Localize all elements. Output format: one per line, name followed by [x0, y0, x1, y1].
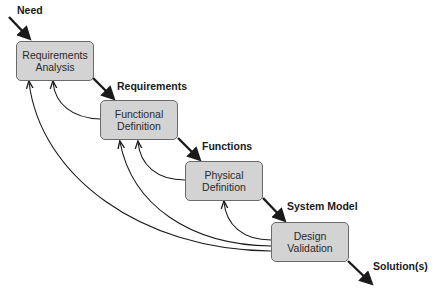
box-line2: Analysis [35, 61, 74, 73]
requirements-arrow [93, 78, 113, 98]
label-functions: Functions [202, 140, 252, 152]
box-line1: Requirements [22, 49, 87, 61]
need-arrow [9, 17, 29, 38]
functions-arrow [178, 138, 199, 159]
feedback-validation-to-physical [224, 202, 271, 240]
label-need: Need [17, 4, 43, 16]
box-functional-definition: Functional Definition [100, 100, 178, 140]
box-design-validation: Design Validation [271, 222, 349, 262]
box-line2: Definition [117, 120, 161, 132]
box-line2: Definition [202, 181, 246, 193]
box-physical-definition: Physical Definition [185, 161, 263, 201]
box-line2: Validation [287, 242, 332, 254]
label-requirements: Requirements [117, 80, 187, 92]
box-line1: Physical [204, 169, 243, 181]
feedback-physical-to-functional [138, 142, 185, 180]
box-requirements-analysis: Requirements Analysis [16, 41, 94, 81]
label-system-model: System Model [287, 200, 358, 212]
system-model-arrow [263, 198, 284, 220]
box-line1: Functional [115, 108, 163, 120]
feedback-functional-to-analysis [53, 82, 100, 119]
solutions-arrow [348, 261, 371, 283]
box-line1: Design [294, 230, 327, 242]
label-solutions: Solution(s) [373, 260, 428, 272]
